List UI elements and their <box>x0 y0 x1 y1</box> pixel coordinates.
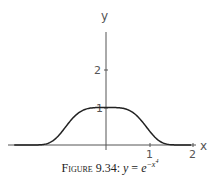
y-axis-label: y <box>101 9 108 23</box>
y-tick-label-2: 2 <box>94 64 101 77</box>
x-axis-label: x <box>200 139 207 153</box>
caption-prefix: Figure 9.34: <box>62 161 120 175</box>
caption-pow: 4 <box>155 158 158 164</box>
caption-eq: = <box>128 161 141 175</box>
figure-caption: Figure 9.34: y = e−x4 <box>0 158 220 176</box>
y-tick-label-1: 1 <box>96 102 103 115</box>
